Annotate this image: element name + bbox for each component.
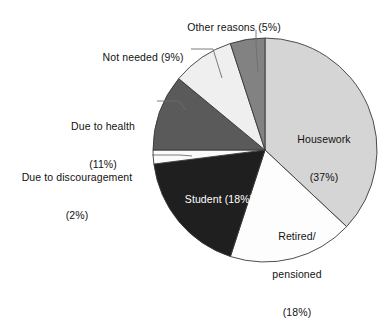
slice-label-student-text: Student (18%) [185, 193, 253, 205]
slice-label-due-to-discouragement-line1: Due to discouragement [2, 171, 152, 184]
slice-label-other-reasons-text: Other reasons (5%) [187, 21, 280, 33]
slice-label-not-needed-text: Not needed (9%) [103, 51, 184, 63]
slice-label-retired-line1: Retired/ [258, 230, 336, 243]
slice-label-retired-line2: pensioned [258, 268, 336, 281]
slice-label-due-to-health-line1: Due to health [48, 120, 158, 133]
slice-label-retired-line3: (18%) [258, 306, 336, 319]
slice-label-due-to-discouragement: Due to discouragement (2%) [2, 146, 152, 247]
slice-label-housework-line1: Housework [281, 133, 367, 146]
slice-label-housework-line2: (37%) [281, 171, 367, 184]
slice-label-housework: Housework (37%) [281, 108, 367, 209]
slice-label-retired-pensioned: Retired/ pensioned (18%) [258, 205, 336, 322]
slice-label-student: Student (18%) [167, 180, 259, 218]
slice-label-due-to-discouragement-line2: (2%) [2, 209, 152, 222]
slice-label-not-needed: Not needed (9%) [83, 38, 191, 76]
